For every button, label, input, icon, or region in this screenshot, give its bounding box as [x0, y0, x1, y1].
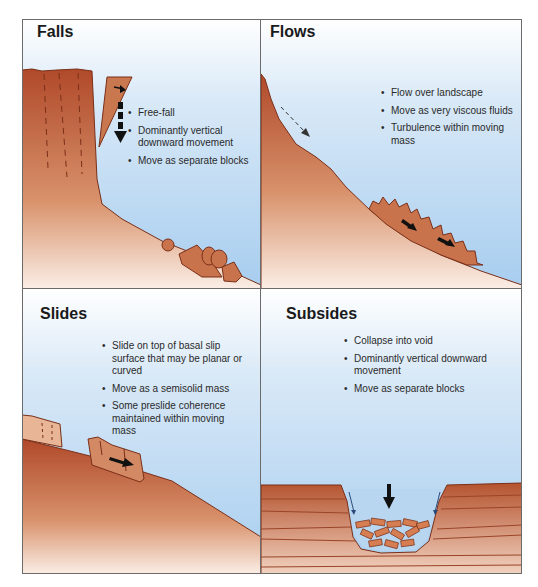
figure-frame [22, 19, 522, 574]
